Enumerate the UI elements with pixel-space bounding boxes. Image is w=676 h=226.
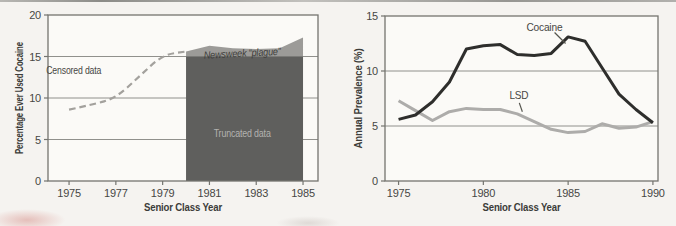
scan-artifact-pink-smudge: [0, 209, 66, 226]
x-axis-label: Senior Class Year: [483, 201, 562, 213]
annual-prevalence-chart: 1975198019851990051015Senior Class YearA…: [336, 0, 676, 226]
series-truncated-data: [186, 57, 303, 182]
x-axis-label: Senior Class Year: [144, 201, 223, 213]
scan-artifact-gray-smudge: [276, 216, 340, 226]
x-tick-label: 1985: [291, 187, 315, 199]
y-tick-label: 0: [35, 175, 41, 187]
x-tick-label: 1977: [104, 187, 128, 199]
x-tick-label: 1980: [472, 187, 496, 199]
x-tick-label: 1985: [556, 187, 580, 199]
y-tick-label: 10: [29, 92, 41, 104]
y-tick-label: 10: [366, 65, 378, 77]
figure-panel: 19751977197919811983198505101520Senior C…: [0, 0, 676, 226]
annotation-lsd: LSD: [509, 89, 528, 101]
x-tick-label: 1975: [57, 187, 81, 199]
x-tick-label: 1990: [641, 187, 665, 199]
scan-artifact-top-line: [0, 0, 676, 2]
lifetime-cocaine-chart: 19751977197919811983198505101520Senior C…: [0, 0, 336, 226]
annotation-truncated-data: Truncated data: [214, 127, 272, 139]
annotation-censored-data: Censored data: [46, 64, 102, 76]
x-tick-label: 1983: [244, 187, 268, 199]
y-tick-label: 15: [366, 10, 378, 22]
annual-prevalence-chart-svg: 1975198019851990051015Senior Class YearA…: [336, 0, 676, 226]
y-tick-label: 15: [29, 51, 41, 63]
y-tick-label: 5: [35, 134, 41, 146]
y-tick-label: 0: [372, 175, 378, 187]
y-tick-label: 20: [29, 9, 41, 21]
y-tick-label: 5: [372, 120, 378, 132]
y-axis-label: Percentage Ever Used Cocaine: [13, 42, 25, 154]
x-tick-label: 1979: [151, 187, 175, 199]
y-axis-label: Annual Prevalence (%): [352, 48, 364, 148]
lifetime-cocaine-chart-svg: 19751977197919811983198505101520Senior C…: [0, 0, 336, 226]
annotation-cocaine: Cocaine: [526, 21, 562, 33]
x-tick-label: 1981: [198, 187, 222, 199]
x-tick-label: 1975: [387, 187, 411, 199]
